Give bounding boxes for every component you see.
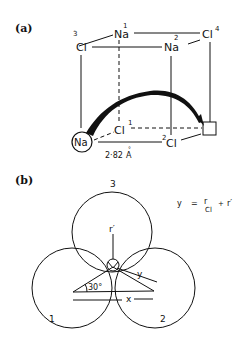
chloride-circles xyxy=(32,192,195,328)
atom-cl1-index: 1 xyxy=(128,119,132,127)
atom-cl3-index: 3 xyxy=(73,30,77,38)
atom-cl4: Cl xyxy=(202,28,213,41)
atom-na1: Na xyxy=(114,28,129,41)
atom-cl2: Cl xyxy=(166,137,177,150)
eq-equals: = xyxy=(191,199,198,208)
circle-3-label: 3 xyxy=(110,179,116,189)
circle-2-label: 2 xyxy=(160,314,166,324)
atom-cl3: Cl xyxy=(76,41,87,54)
eq-sub-cl: Cl xyxy=(205,206,212,214)
equation: y = r Cl + r′ xyxy=(177,197,232,214)
eq-plus: + xyxy=(218,200,224,208)
panel-a-label: (a) xyxy=(15,22,33,35)
eq-lhs: y xyxy=(177,199,182,208)
jump-path-arrow xyxy=(86,91,202,136)
distance-unit: A xyxy=(126,151,132,160)
panel-b-label: (b) xyxy=(15,174,33,187)
distance-unit-ring: ° xyxy=(128,145,131,152)
vacancy-square xyxy=(203,122,216,135)
eq-r-prime: r′ xyxy=(227,199,232,208)
y-label: y xyxy=(137,269,143,279)
circle-2 xyxy=(115,248,195,328)
atom-na2: Na xyxy=(164,41,179,54)
atom-cl1: Cl xyxy=(114,124,125,137)
x-label: x xyxy=(126,294,132,304)
r-prime-label: r′ xyxy=(109,224,115,234)
hidden-edges xyxy=(94,40,202,140)
eq-r: r xyxy=(204,197,208,206)
atom-na-moving: Na xyxy=(74,137,88,148)
atom-cl4-index: 4 xyxy=(215,25,220,33)
angle-label: 30° xyxy=(88,283,102,292)
circle-1-label: 1 xyxy=(49,314,55,324)
distance-value: 2·82 xyxy=(105,151,123,160)
